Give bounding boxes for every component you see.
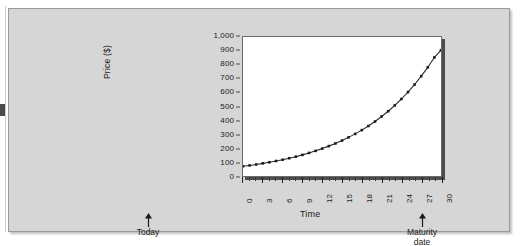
data-point [248, 164, 251, 167]
screenshot-root: Price ($) 1,0009008007006005004003002001… [0, 0, 523, 246]
data-point [413, 83, 416, 86]
x-axis-tick-mark [375, 177, 376, 181]
y-axis-tick-label: 900 [220, 46, 234, 54]
data-point [262, 162, 265, 165]
y-axis-tick-label: 0 [229, 173, 234, 181]
x-axis-tick-label: 18 [366, 194, 374, 203]
x-axis-tick-mark [402, 177, 403, 183]
y-axis-tick-mark [236, 177, 240, 178]
x-axis-tick-mark [322, 177, 323, 183]
x-axis-tick-mark [275, 177, 276, 181]
plot-area [242, 36, 442, 177]
x-axis-tick-mark [355, 177, 356, 181]
data-point [314, 150, 317, 153]
y-axis-tick-mark [236, 78, 240, 79]
annotation-maturity-label-line1: Maturity [407, 227, 437, 237]
y-axis-labels: 1,0009008007006005004003002001000 [190, 31, 240, 181]
y-axis-tick-label: 400 [220, 117, 234, 125]
price-curve-svg [243, 37, 441, 176]
y-axis-tick-label: 600 [220, 88, 234, 96]
y-axis-tick-label: 300 [220, 131, 234, 139]
x-axis-tick-mark [435, 177, 436, 181]
data-point [288, 157, 291, 160]
x-axis-tick-label: 6 [286, 199, 294, 203]
data-point [281, 158, 284, 161]
data-point [275, 160, 278, 163]
y-axis-tick-label: 800 [220, 60, 234, 68]
y-axis-tick-mark [236, 120, 240, 121]
x-axis-tick-mark [422, 177, 423, 183]
x-axis-tick-label: 30 [446, 194, 454, 203]
x-axis-tick-mark [255, 177, 256, 181]
x-axis-tick-mark [289, 177, 290, 181]
x-axis-title: Time [300, 209, 320, 219]
x-axis-tick-mark [282, 177, 283, 183]
x-axis-tick-mark [442, 177, 443, 183]
annotation-maturity-label-line2: date [414, 237, 431, 246]
x-axis-tick-mark [309, 177, 310, 181]
annotation-today: Today [118, 213, 178, 238]
data-point [367, 125, 370, 128]
data-point [308, 152, 311, 155]
x-axis-tick-label: 0 [246, 199, 254, 203]
y-axis-tick-mark [236, 162, 240, 163]
x-axis-tick-label: 12 [326, 194, 334, 203]
arrow-up-icon [418, 213, 427, 227]
data-point [440, 49, 441, 52]
x-axis-tick-mark [295, 177, 296, 181]
x-axis-tick-mark [262, 177, 263, 183]
data-point [407, 91, 410, 94]
y-axis-tick-mark [236, 36, 240, 37]
figure-panel: Price ($) 1,0009008007006005004003002001… [8, 8, 510, 232]
x-axis-tick-mark [302, 177, 303, 183]
data-point [334, 142, 337, 145]
x-axis-tick-mark [395, 177, 396, 181]
y-axis-tick-mark [236, 134, 240, 135]
data-point [433, 56, 436, 59]
data-point [361, 129, 364, 132]
data-point [387, 110, 390, 113]
price-curve-markers [243, 49, 441, 168]
price-curve-line [243, 50, 441, 166]
x-axis-tick-mark [382, 177, 383, 183]
x-axis-tick-mark [249, 177, 250, 181]
arrow-up-icon [144, 213, 153, 227]
data-point [347, 136, 350, 139]
x-axis-tick-mark [269, 177, 270, 181]
data-point [255, 163, 258, 166]
x-axis-tick-mark [329, 177, 330, 181]
y-axis-tick-label: 700 [220, 74, 234, 82]
x-axis-tick-label: 9 [306, 199, 314, 203]
x-axis-tick-mark [415, 177, 416, 181]
x-axis-tick-mark [349, 177, 350, 181]
x-axis-tick-label: 15 [346, 194, 354, 203]
x-axis-tick-label: 21 [386, 194, 394, 203]
y-axis-tick-label: 200 [220, 145, 234, 153]
annotation-today-label: Today [137, 227, 160, 237]
data-point [420, 75, 423, 78]
data-point [341, 139, 344, 142]
x-axis-tick-mark [242, 177, 243, 183]
data-point [394, 104, 397, 107]
data-point [427, 66, 430, 69]
y-axis-title: Price ($) [102, 45, 112, 79]
price-vs-time-chart: Price ($) 1,0009008007006005004003002001… [104, 27, 394, 232]
x-axis-tick-mark [429, 177, 430, 181]
y-axis-tick-mark [236, 106, 240, 107]
data-point [380, 115, 383, 118]
y-axis-tick-label: 500 [220, 103, 234, 111]
annotation-maturity: Maturity date [392, 213, 452, 246]
y-axis-tick-mark [236, 50, 240, 51]
x-axis-tick-label: 27 [426, 194, 434, 203]
page-edge-rule [5, 6, 6, 232]
y-axis-tick-label: 100 [220, 159, 234, 167]
data-point [374, 120, 377, 123]
data-point [328, 145, 331, 148]
x-axis-tick-label: 3 [266, 199, 274, 203]
x-axis-tick-mark [362, 177, 363, 183]
x-axis-tick-mark [389, 177, 390, 181]
data-point [295, 155, 298, 158]
data-point [321, 147, 324, 150]
y-axis-tick-label: 1,000 [213, 32, 234, 40]
y-axis-tick-mark [236, 64, 240, 65]
